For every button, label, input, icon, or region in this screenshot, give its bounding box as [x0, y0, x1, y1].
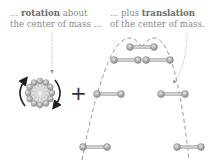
trajectory-left [82, 38, 142, 160]
dumbbell-molecule [158, 91, 189, 98]
dumbbell-molecule [174, 144, 205, 151]
plus-sign: + [70, 81, 87, 105]
rotation-rosette-icon [25, 78, 55, 108]
rotation-arrow-up-icon [20, 80, 25, 106]
trajectory-right [142, 38, 189, 160]
translation-pointer [174, 33, 187, 82]
dumbbell-molecule [111, 57, 142, 64]
dumbbell-molecule [94, 91, 125, 98]
dumbbell-molecule [143, 57, 174, 64]
rotation-arrow-down-icon [55, 80, 60, 106]
dumbbell-molecule [127, 44, 158, 51]
dumbbell-molecule [80, 144, 111, 151]
diagram-canvas: + [0, 0, 216, 161]
